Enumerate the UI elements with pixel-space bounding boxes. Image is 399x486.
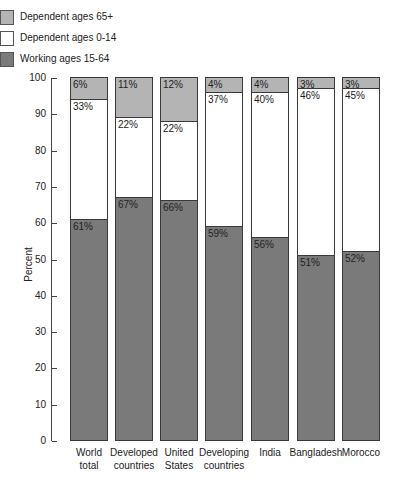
legend-label-0-14: Dependent ages 0-14 [20,32,116,43]
bar-developing-countries: 59%37%4% [205,78,243,441]
segment-value-label: 12% [163,79,183,90]
y-tick [52,78,57,79]
bar-segment: 11% [115,77,153,118]
y-tick-label: 60 [6,218,46,228]
y-tick [52,260,57,261]
segment-value-label: 67% [118,199,138,210]
segment-value-label: 11% [118,79,137,90]
bar-segment: 22% [160,121,198,202]
segment-value-label: 52% [345,253,365,264]
bar-segment: 45% [342,88,380,252]
bar-segment: 66% [160,200,198,441]
y-tick-label: 10 [6,400,46,410]
bar-segment: 40% [251,92,289,238]
y-tick-label: 50 [6,255,46,265]
legend-item-working: Working ages 15-64 [0,52,200,72]
legend-item-0-14: Dependent ages 0-14 [0,31,200,51]
bar-segment: 22% [115,117,153,198]
y-tick [52,114,57,115]
y-axis-label: Percent [23,243,34,287]
segment-value-label: 66% [163,202,183,213]
x-tick-label: Morocco [331,446,391,459]
y-tick-label: 90 [6,109,46,119]
segment-value-label: 40% [254,94,274,105]
y-tick-label: 70 [6,182,46,192]
bar-segment: 61% [70,219,108,441]
legend-label-65plus: Dependent ages 65+ [20,11,113,22]
bar-segment: 3% [297,77,335,89]
legend-swatch-working [0,52,14,67]
bar-segment: 33% [70,99,108,220]
segment-value-label: 45% [345,90,365,101]
bar-segment: 52% [342,251,380,441]
segment-value-label: 61% [73,221,93,232]
segment-value-label: 59% [208,228,228,239]
y-tick [52,441,57,442]
y-tick [52,332,57,333]
y-tick [52,151,57,152]
y-tick-label: 40 [6,291,46,301]
segment-value-label: 22% [163,123,183,134]
y-tick [52,368,57,369]
bar-segment: 67% [115,197,153,441]
segment-value-label: 22% [118,119,138,130]
segment-value-label: 37% [208,94,228,105]
bar-india: 56%40%4% [251,78,289,441]
y-tick [52,405,57,406]
y-tick [52,296,57,297]
bar-segment: 51% [297,255,335,441]
bar-segment: 4% [251,77,289,93]
bar-developed-countries: 67%22%11% [115,78,153,441]
bar-segment: 12% [160,77,198,122]
bar-segment: 56% [251,237,289,441]
y-tick-label: 0 [6,436,46,446]
legend-label-working: Working ages 15-64 [20,53,109,64]
segment-value-label: 51% [300,257,320,268]
segment-value-label: 4% [208,79,222,90]
bar-segment: 4% [205,77,243,93]
segment-value-label: 46% [300,90,320,101]
segment-value-label: 6% [73,79,87,90]
bar-morocco: 52%45%3% [342,78,380,441]
segment-value-label: 3% [345,79,359,90]
x-tick-label-line: Morocco [331,446,391,459]
legend-item-65plus: Dependent ages 65+ [0,10,200,30]
segment-value-label: 56% [254,239,274,250]
legend-swatch-65plus [0,10,14,25]
bar-segment: 46% [297,88,335,256]
bar-segment: 37% [205,92,243,227]
legend-swatch-0-14 [0,31,14,46]
bar-united-states: 66%22%12% [160,78,198,441]
bar-world-total: 61%33%6% [70,78,108,441]
segment-value-label: 3% [300,79,314,90]
y-tick-label: 80 [6,146,46,156]
y-tick-label: 20 [6,363,46,373]
y-tick [52,223,57,224]
x-tick-label-line: countries [194,459,254,472]
y-tick-label: 100 [6,73,46,83]
bar-segment: 6% [70,77,108,100]
y-tick-label: 30 [6,327,46,337]
bar-segment: 59% [205,226,243,441]
segment-value-label: 33% [73,101,93,112]
y-tick [52,187,57,188]
bar-bangladesh: 51%46%3% [297,78,335,441]
segment-value-label: 4% [254,79,268,90]
bar-segment: 3% [342,77,380,89]
